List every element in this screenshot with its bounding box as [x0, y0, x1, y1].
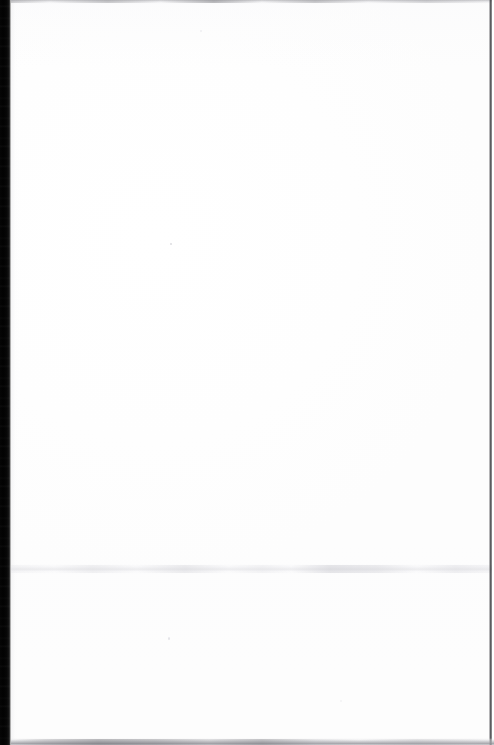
page-text-content [40, 40, 460, 700]
scanned-page-viewport [0, 0, 494, 745]
gutter-scan-noise [0, 0, 11, 745]
bottom-edge-band [11, 738, 494, 745]
top-edge-line [11, 0, 494, 4]
left-gutter-shadow [0, 0, 11, 745]
